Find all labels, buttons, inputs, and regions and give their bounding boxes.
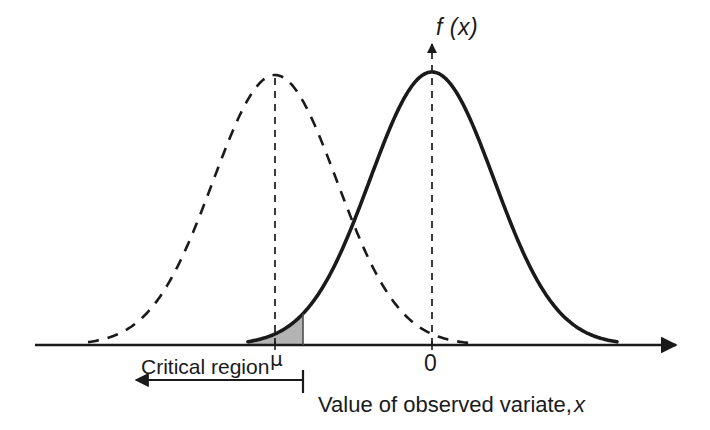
zero-label: 0 [424, 352, 437, 375]
distribution-plot [0, 0, 710, 430]
x-axis-caption-variable: x [572, 392, 585, 417]
critical-region-label: Critical region [141, 356, 269, 377]
x-axis-caption: Value of observed variate,x [318, 394, 585, 416]
f-of-x-label: f (x) [436, 16, 478, 39]
x-axis-caption-text: Value of observed variate, [318, 392, 572, 417]
statistics-figure: f (x) μ 0 Critical region Value of obser… [0, 0, 710, 430]
mu-label: μ [270, 349, 283, 369]
null-distribution-curve [88, 75, 469, 343]
